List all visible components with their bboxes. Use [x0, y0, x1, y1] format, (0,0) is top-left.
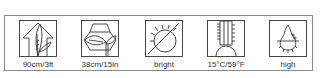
light-label: bright — [133, 60, 195, 69]
thermometer-icon — [207, 20, 245, 57]
care-item-spread: 38cm/15in — [69, 16, 131, 72]
plant-height-icon — [19, 20, 57, 57]
care-item-height: 90cm/3ft — [7, 16, 69, 72]
care-item-light: bright — [133, 16, 195, 72]
sun-exposure-icon — [145, 20, 183, 57]
temperature-label: 15°C/59°F — [195, 60, 257, 69]
plant-care-panel: 90cm/3ft 38cm/15in — [4, 15, 313, 71]
spread-label: 38cm/15in — [69, 60, 131, 69]
humidity-label: high — [257, 60, 319, 69]
care-item-temperature: 15°C/59°F — [195, 16, 257, 72]
height-label: 90cm/3ft — [7, 60, 69, 69]
water-drop-icon — [269, 20, 307, 57]
plant-spread-icon — [81, 20, 119, 57]
care-item-humidity: high — [257, 16, 319, 72]
